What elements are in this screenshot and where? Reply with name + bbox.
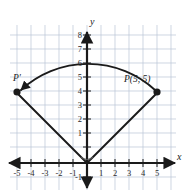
point-P-prime	[13, 88, 20, 95]
x-tick-label: 2	[113, 168, 117, 178]
x-tick-label: -4	[27, 168, 35, 178]
x-axis-label: x	[176, 151, 182, 162]
y-tick-label: 5	[78, 72, 82, 82]
x-tick-label: 5	[155, 168, 159, 178]
y-tick-label: 2	[78, 114, 82, 124]
y-tick-label: 1	[78, 128, 82, 138]
y-tick-label: 6	[78, 58, 82, 68]
x-tick-label: 1	[99, 168, 103, 178]
y-axis-label: y	[89, 16, 95, 27]
rotation-figure: P(5, 5) P′ x y -5 -4 -3 -2 -1 1 2 3 4 5 …	[0, 0, 186, 195]
x-tick-label: -2	[55, 168, 62, 178]
point-P	[153, 88, 160, 95]
point-P-label: P(5, 5)	[123, 74, 150, 85]
y-tick-label: 8	[78, 30, 82, 40]
coordinate-plane-svg: P(5, 5) P′ x y -5 -4 -3 -2 -1 1 2 3 4 5 …	[0, 0, 186, 195]
x-tick-label: 3	[127, 168, 131, 178]
y-tick-label: 3	[78, 100, 82, 110]
y-tick-label: -1	[75, 172, 82, 182]
x-tick-label: -3	[41, 168, 48, 178]
y-tick-label: 7	[78, 44, 82, 54]
x-tick-label: -5	[13, 168, 20, 178]
point-P-prime-label: P′	[12, 73, 22, 83]
figure-background	[0, 0, 186, 195]
